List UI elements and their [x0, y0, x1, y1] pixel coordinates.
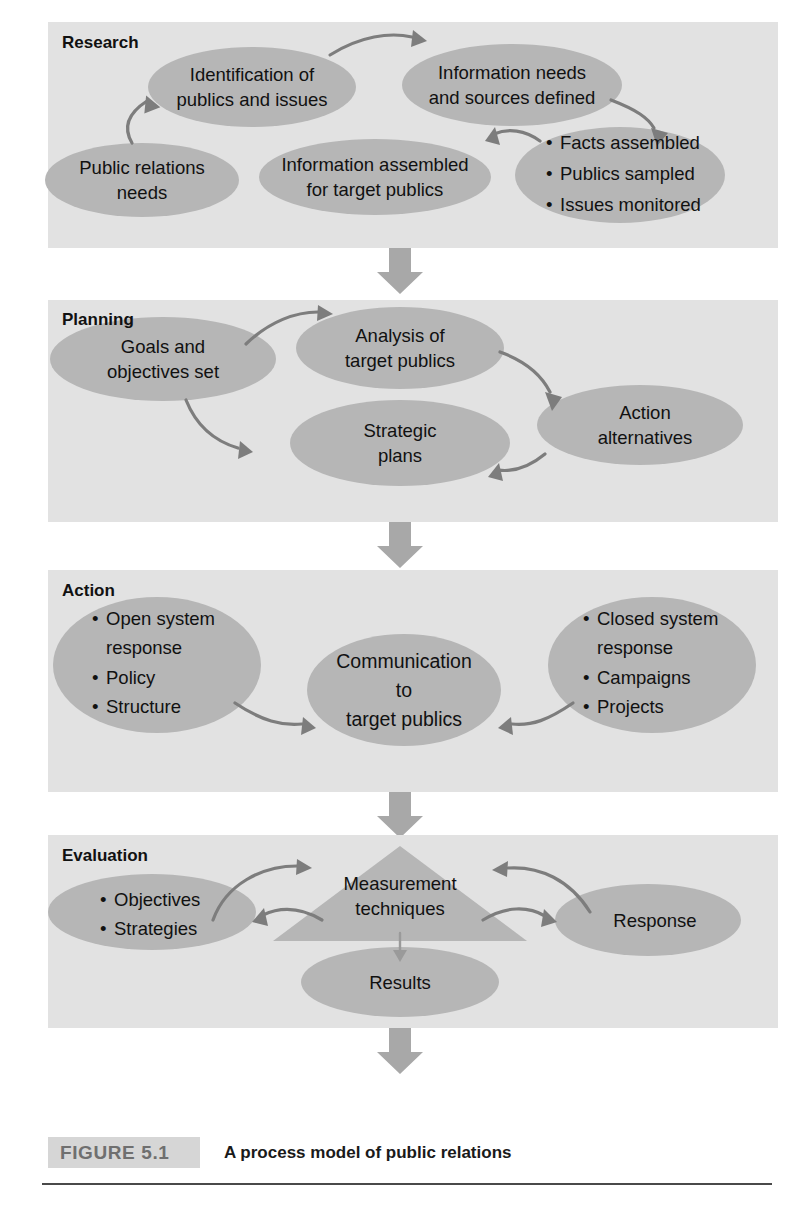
- label-strategies: Strategies: [114, 918, 197, 939]
- process-model-diagram: Research Public relations needs Identifi…: [0, 0, 799, 1206]
- bullet-glyph-issues: •: [546, 194, 552, 215]
- label-measurement-line2: techniques: [355, 898, 444, 919]
- label-action-alternatives-line2: alternatives: [598, 427, 693, 448]
- label-analysis-line2: target publics: [345, 350, 455, 371]
- node-identification-of-publics-and-issues: [148, 47, 356, 127]
- bullet-glyph-structure: •: [92, 696, 98, 717]
- label-measurement-line1: Measurement: [343, 873, 456, 894]
- bullet-glyph-objectives: •: [100, 889, 106, 910]
- node-action-alternatives: [537, 385, 743, 465]
- bullet-glyph-facts: •: [546, 132, 552, 153]
- flow-arrow-evaluation-out: [377, 1028, 423, 1074]
- label-objectives: Objectives: [114, 889, 200, 910]
- label-public-relations-needs-line2: needs: [117, 182, 167, 203]
- label-identification-line1: Identification of: [190, 64, 315, 85]
- node-strategic-plans: [290, 400, 510, 486]
- node-analysis-of-target-publics: [296, 307, 504, 389]
- label-campaigns: Campaigns: [597, 667, 691, 688]
- label-strategic-line2: plans: [378, 445, 422, 466]
- node-goals-and-objectives-set: [50, 317, 276, 401]
- figure-root: Research Public relations needs Identifi…: [0, 0, 799, 1206]
- flow-arrow-research-to-planning: [377, 248, 423, 294]
- bullet-glyph-campaigns: •: [583, 667, 589, 688]
- stage-label-research: Research: [62, 33, 139, 52]
- label-facts-assembled: Facts assembled: [560, 132, 700, 153]
- label-goals-line2: objectives set: [107, 361, 219, 382]
- label-goals-line1: Goals and: [121, 336, 205, 357]
- bullet-glyph-policy: •: [92, 667, 98, 688]
- label-information-needs-line1: Information needs: [438, 62, 586, 83]
- bullet-glyph-closed-system: •: [583, 608, 589, 629]
- flow-arrow-action-to-evaluation: [377, 792, 423, 838]
- label-communication-line3: target publics: [346, 708, 462, 730]
- caption-divider: [42, 1183, 772, 1185]
- label-information-assembled-line1: Information assembled: [281, 154, 468, 175]
- label-open-system-response: response: [106, 637, 182, 658]
- label-strategic-line1: Strategic: [363, 420, 436, 441]
- label-results: Results: [369, 972, 431, 993]
- label-response: Response: [613, 910, 696, 931]
- label-information-needs-line2: and sources defined: [429, 87, 596, 108]
- label-communication-line2: to: [396, 679, 412, 701]
- label-projects: Projects: [597, 696, 664, 717]
- flow-arrow-planning-to-action: [377, 522, 423, 568]
- label-publics-sampled: Publics sampled: [560, 163, 695, 184]
- bullet-glyph-open-system: •: [92, 608, 98, 629]
- label-action-alternatives-line1: Action: [619, 402, 670, 423]
- node-public-relations-needs: [45, 143, 239, 217]
- bullet-glyph-publics: •: [546, 163, 552, 184]
- label-structure: Structure: [106, 696, 181, 717]
- label-public-relations-needs-line1: Public relations: [79, 157, 204, 178]
- stage-label-evaluation: Evaluation: [62, 846, 148, 865]
- label-closed-system: Closed system: [597, 608, 718, 629]
- bullet-glyph-projects: •: [583, 696, 589, 717]
- stage-label-planning: Planning: [62, 310, 134, 329]
- label-identification-line2: publics and issues: [176, 89, 327, 110]
- label-closed-system-response: response: [597, 637, 673, 658]
- bullet-glyph-strategies: •: [100, 918, 106, 939]
- label-open-system: Open system: [106, 608, 215, 629]
- node-information-assembled-for-target-publics: [259, 139, 491, 215]
- label-issues-monitored: Issues monitored: [560, 194, 701, 215]
- figure-tag: FIGURE 5.1: [60, 1142, 169, 1164]
- label-information-assembled-line2: for target publics: [307, 179, 444, 200]
- stage-label-action: Action: [62, 581, 115, 600]
- label-communication-line1: Communication: [336, 650, 471, 672]
- label-policy: Policy: [106, 667, 156, 688]
- label-analysis-line1: Analysis of: [355, 325, 445, 346]
- figure-caption: A process model of public relations: [224, 1143, 511, 1163]
- node-information-needs-and-sources-defined: [402, 44, 622, 126]
